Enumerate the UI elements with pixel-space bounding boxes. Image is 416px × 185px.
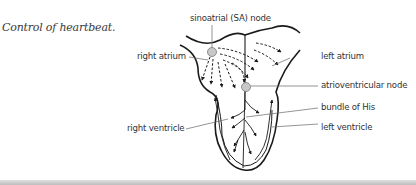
leader-lines [186, 25, 318, 129]
label-right-ventricle: right ventricle [127, 123, 184, 133]
label-bundle-of-his: bundle of His [321, 102, 376, 112]
label-left-atrium: left atrium [321, 51, 364, 61]
septal-line [243, 90, 245, 168]
label-right-atrium: right atrium [137, 51, 186, 61]
heart-outline [180, 26, 300, 170]
av-node [242, 83, 251, 92]
label-sa-node: sinoatrial (SA) node [190, 13, 271, 23]
page-edge-divider [0, 180, 416, 185]
sa-node [208, 48, 217, 57]
label-av-node: atrioventricular node [321, 80, 407, 90]
heart-diagram: sinoatrial (SA) node right atrium left a… [0, 0, 416, 185]
label-left-ventricle: left ventricle [321, 122, 372, 132]
